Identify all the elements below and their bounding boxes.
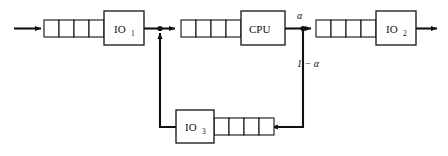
station-io2: IO 2 (376, 11, 416, 45)
queue-cell (196, 20, 211, 37)
cpu-queue (181, 20, 241, 37)
queue-cell (346, 20, 361, 37)
queue-cell (181, 20, 196, 37)
network-canvas: IO 1 CPU α (0, 0, 448, 156)
alpha-label: α (297, 10, 303, 21)
queue-cell (89, 20, 104, 37)
io1-queue (44, 20, 104, 37)
queue-cell (244, 118, 259, 135)
io1-subscript: 1 (131, 29, 135, 38)
io3-subscript: 3 (202, 127, 206, 136)
queue-cell (316, 20, 331, 37)
queue-cell (74, 20, 89, 37)
queue-cell (44, 20, 59, 37)
io3-to-merge-feedback-path (160, 33, 176, 127)
queueing-network-diagram: IO 1 CPU α (0, 0, 448, 156)
station-io1: IO 1 (104, 11, 144, 45)
queue-cell (226, 20, 241, 37)
queue-cell (229, 118, 244, 135)
io2-queue (316, 20, 376, 37)
queue-cell (361, 20, 376, 37)
queue-cell (259, 118, 274, 135)
one-minus-alpha-label: 1 − α (297, 58, 320, 69)
queue-cell (59, 20, 74, 37)
station-cpu: CPU (241, 11, 285, 45)
merge-junction-dot (157, 26, 162, 31)
queue-cell (331, 20, 346, 37)
station-io3: IO 3 (176, 110, 214, 143)
queue-cell (214, 118, 229, 135)
io1-label: IO (114, 23, 126, 35)
cpu-label: CPU (249, 23, 270, 35)
io3-queue (214, 118, 274, 135)
io3-label: IO (185, 121, 197, 133)
queue-cell (211, 20, 226, 37)
io2-label: IO (386, 23, 398, 35)
io2-subscript: 2 (403, 29, 407, 38)
